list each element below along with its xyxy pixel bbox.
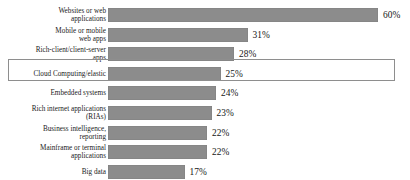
bar bbox=[108, 126, 207, 140]
chart-row: Mobile or mobile web apps31% bbox=[0, 25, 410, 45]
category-label: Business intelligence, reporting bbox=[4, 125, 106, 141]
bar-group: 25% bbox=[108, 67, 243, 81]
chart-row: Websites or web applications60% bbox=[0, 5, 410, 25]
bar-group: 23% bbox=[108, 106, 234, 120]
chart-row: Business intelligence, reporting22% bbox=[0, 123, 410, 143]
bar bbox=[108, 106, 212, 120]
bar-value-label: 31% bbox=[253, 28, 270, 42]
category-label: Mainframe or terminal applications bbox=[4, 144, 106, 160]
chart-row: Rich-client/client-server apps28% bbox=[0, 44, 410, 64]
category-label: Rich-client/client-server apps bbox=[4, 46, 106, 62]
bar-group: 22% bbox=[108, 126, 229, 140]
bar-value-label: 17% bbox=[190, 165, 207, 179]
bar-group: 60% bbox=[108, 8, 400, 22]
bar-group: 17% bbox=[108, 165, 207, 179]
bar-value-label: 22% bbox=[212, 145, 229, 159]
bar-group: 24% bbox=[108, 86, 238, 100]
category-label: Embedded systems bbox=[4, 89, 106, 97]
bar-group: 28% bbox=[108, 47, 256, 61]
bar-chart: Websites or web applications60%Mobile or… bbox=[0, 0, 410, 180]
bar-value-label: 23% bbox=[217, 106, 234, 120]
chart-row: Big data17% bbox=[0, 162, 410, 180]
bar bbox=[108, 28, 248, 42]
bar-value-label: 28% bbox=[239, 47, 256, 61]
bar bbox=[108, 67, 221, 81]
chart-row: Cloud Computing/elastic25% bbox=[0, 64, 410, 84]
bar bbox=[108, 47, 234, 61]
bar-value-label: 60% bbox=[383, 8, 400, 22]
chart-row: Rich internet applications (RIAs)23% bbox=[0, 103, 410, 123]
category-label: Cloud Computing/elastic bbox=[4, 70, 106, 78]
chart-row: Embedded systems24% bbox=[0, 83, 410, 103]
bar-value-label: 22% bbox=[212, 126, 229, 140]
bar-value-label: 24% bbox=[221, 86, 238, 100]
category-label: Big data bbox=[4, 168, 106, 176]
category-label: Websites or web applications bbox=[4, 7, 106, 23]
bar bbox=[108, 145, 207, 159]
bar-group: 31% bbox=[108, 28, 270, 42]
bar-group: 22% bbox=[108, 145, 229, 159]
bar bbox=[108, 8, 378, 22]
bar bbox=[108, 86, 216, 100]
chart-row: Mainframe or terminal applications22% bbox=[0, 142, 410, 162]
bar bbox=[108, 165, 185, 179]
bar-value-label: 25% bbox=[226, 67, 243, 81]
category-label: Mobile or mobile web apps bbox=[4, 27, 106, 43]
category-label: Rich internet applications (RIAs) bbox=[4, 105, 106, 121]
chart-rows: Websites or web applications60%Mobile or… bbox=[0, 0, 410, 180]
